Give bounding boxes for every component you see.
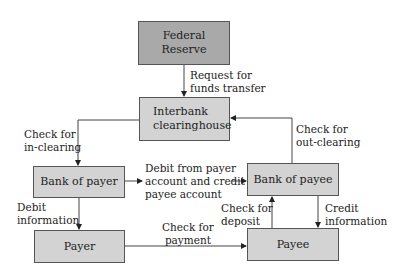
edge-label-debit-credit: Debit from payer account and credit paye… <box>145 162 245 201</box>
node-label: Payer <box>64 240 95 254</box>
edge-label-in-clearing: Check for in-clearing <box>24 128 81 154</box>
node-label: Bank of payer <box>40 175 118 189</box>
node-federal-reserve: Federal Reserve <box>138 21 230 65</box>
edge-label-request-funds: Request for funds transfer <box>190 69 266 95</box>
node-label: Bank of payee <box>254 173 333 187</box>
node-label: Payee <box>277 238 310 252</box>
node-label: Interbank clearinghouse <box>153 105 232 133</box>
node-interbank-clearinghouse: Interbank clearinghouse <box>139 97 230 141</box>
node-payee: Payee <box>247 228 339 261</box>
node-bank-of-payer: Bank of payer <box>33 166 125 198</box>
node-bank-of-payee: Bank of payee <box>247 163 339 196</box>
edge-label-credit-info: Credit information <box>325 202 387 228</box>
edge-label-out-clearing: Check for out-clearing <box>296 123 360 149</box>
edge-label-payment: Check for payment <box>162 221 214 247</box>
edge-label-debit-info: Debit information <box>17 201 79 227</box>
node-payer: Payer <box>34 230 125 263</box>
node-label: Federal Reserve <box>139 29 229 57</box>
edge-label-deposit: Check for deposit <box>221 202 273 228</box>
